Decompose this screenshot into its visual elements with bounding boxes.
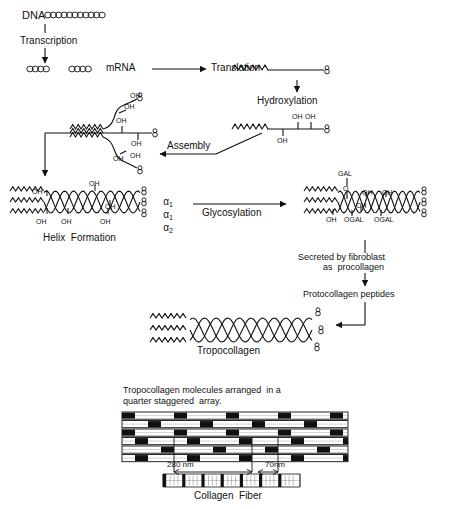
oh-label: OH bbox=[116, 117, 127, 125]
oh-label: OH bbox=[131, 140, 142, 148]
oh-label: OH bbox=[130, 152, 141, 160]
measure-280-label: 280 nm bbox=[167, 461, 194, 470]
gal-label: GAL bbox=[338, 170, 352, 178]
oh-label: OH bbox=[100, 218, 111, 226]
oh-label: OH bbox=[356, 202, 367, 210]
hydroxylated-chain bbox=[232, 122, 329, 136]
collagen-biosynthesis-figure: DNA Transcription mRNA Translation Hydro… bbox=[0, 0, 449, 509]
oh-label: OH bbox=[61, 218, 72, 226]
oh-label: OH bbox=[362, 189, 373, 197]
oh-label: OH bbox=[36, 218, 47, 226]
array-caption-line2: quarter staggered array. bbox=[123, 397, 221, 407]
protocollagen-label: Protocollagen peptides bbox=[303, 290, 395, 300]
oh-label: OH bbox=[32, 188, 43, 196]
hydroxylation-label: Hydroxylation bbox=[257, 95, 318, 106]
oh-label: OH bbox=[105, 203, 116, 211]
o-label: O bbox=[343, 185, 348, 193]
alpha-chain-label-3: α2 bbox=[152, 211, 173, 246]
oh-label: OH bbox=[292, 113, 303, 121]
oh-label: OH bbox=[277, 137, 288, 145]
oh-label: OH bbox=[124, 103, 135, 111]
measure-70-label: 70nm bbox=[265, 461, 285, 470]
collagen-fiber-label: Collagen Fiber bbox=[194, 490, 262, 501]
assembly-label: Assembly bbox=[167, 140, 210, 151]
oh-label: OH bbox=[130, 92, 141, 100]
helix-formation-label: Helix Formation bbox=[43, 232, 116, 243]
oh-label: OH bbox=[326, 216, 337, 224]
oh-label: OH bbox=[305, 113, 316, 121]
transcription-label: Transcription bbox=[20, 35, 77, 46]
dna-strand bbox=[45, 12, 105, 18]
array-caption-line1: Tropocollagen molecules arranged in a bbox=[123, 386, 281, 396]
secreted-label-line2: as procollagen bbox=[323, 263, 384, 273]
glycosylation-label: Glycosylation bbox=[202, 207, 261, 218]
ogal-label: OGAL bbox=[344, 216, 363, 224]
translation-label: Translation bbox=[211, 62, 260, 73]
oh-label: OH bbox=[382, 189, 393, 197]
alpha-subscript: 2 bbox=[169, 226, 173, 235]
mrna-label: mRNA bbox=[106, 62, 135, 73]
oh-label: OH bbox=[113, 155, 124, 163]
staggered-array bbox=[122, 412, 348, 475]
tropocollagen-helix bbox=[190, 318, 312, 342]
tropocollagen-label: Tropocollagen bbox=[197, 345, 260, 356]
dna-label: DNA bbox=[22, 9, 45, 21]
triple-helix-left bbox=[44, 191, 140, 213]
oh-label: OH bbox=[89, 180, 100, 188]
ogal-label: OGAL bbox=[374, 216, 393, 224]
collagen-fiber-drawing bbox=[163, 474, 300, 487]
triple-helix-right bbox=[338, 191, 420, 213]
